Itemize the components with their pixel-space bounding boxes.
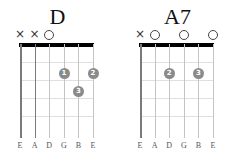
string-label: B <box>73 141 83 151</box>
string-line <box>64 44 65 138</box>
muted-string-icon <box>15 29 25 39</box>
string-line <box>169 44 170 138</box>
string-label: D <box>44 141 54 151</box>
fret-line <box>140 62 213 63</box>
muted-string-icon <box>135 29 145 39</box>
chord-diagram-d: D 1 2 3 E A D G B E <box>0 0 115 155</box>
fret-line <box>20 116 93 117</box>
nut <box>19 43 94 47</box>
open-string-icon <box>208 30 218 40</box>
finger-dot: 2 <box>88 68 99 79</box>
string-label: A <box>150 141 160 151</box>
string-line <box>93 44 94 138</box>
string-label: G <box>179 141 189 151</box>
string-line <box>35 44 37 138</box>
string-label: E <box>135 141 145 151</box>
string-label: E <box>88 141 98 151</box>
finger-dot: 3 <box>193 68 204 79</box>
chord-title: D <box>0 5 115 29</box>
string-label: E <box>208 141 218 151</box>
string-label: B <box>193 141 203 151</box>
string-line <box>140 44 142 138</box>
open-string-icon <box>44 30 54 40</box>
open-string-icon <box>179 30 189 40</box>
string-label: E <box>15 141 25 151</box>
string-label: G <box>59 141 69 151</box>
fret-line <box>140 116 213 117</box>
string-line <box>20 44 22 138</box>
string-line <box>155 44 156 138</box>
fret-line <box>140 98 213 99</box>
string-line <box>198 44 199 138</box>
finger-dot: 3 <box>73 86 84 97</box>
fret-line <box>20 62 93 63</box>
chord-diagram-a7: A7 2 3 E A D G B E <box>120 0 230 155</box>
muted-string-icon <box>30 29 40 39</box>
nut <box>139 43 214 47</box>
fret-line <box>140 80 213 81</box>
finger-dot: 2 <box>164 68 175 79</box>
string-line <box>213 44 214 138</box>
finger-dot: 1 <box>59 68 70 79</box>
fret-line <box>20 98 93 99</box>
fret-line <box>20 80 93 81</box>
string-line <box>49 44 50 138</box>
chord-title: A7 <box>120 5 230 29</box>
string-line <box>184 44 185 138</box>
open-string-icon <box>150 30 160 40</box>
string-label: A <box>30 141 40 151</box>
string-label: D <box>164 141 174 151</box>
